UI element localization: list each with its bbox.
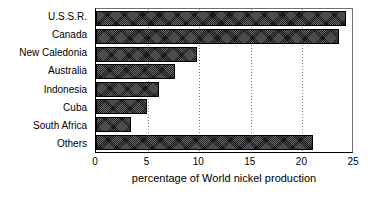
bar <box>96 47 197 62</box>
x-axis-tick-labels: 0510152025 <box>95 156 353 170</box>
bar-row <box>96 45 352 63</box>
x-axis-tick-label: 15 <box>244 156 255 168</box>
nickel-production-bar-chart: U.S.S.R. Canada New Caledonia Australia … <box>0 0 377 198</box>
y-axis-tick-label-row: Indonesia <box>0 81 91 99</box>
bar-row <box>96 133 352 151</box>
bar-row <box>96 116 352 134</box>
y-axis-tick-label: U.S.S.R. <box>48 12 87 22</box>
y-axis-tick-label: Australia <box>48 66 87 76</box>
y-axis-tick-label-row: Canada <box>0 26 91 44</box>
y-axis-tick-label: Cuba <box>63 103 87 113</box>
y-axis-category-labels: U.S.S.R. Canada New Caledonia Australia … <box>0 8 91 153</box>
x-axis-tick-label: 10 <box>193 156 204 168</box>
x-axis-tick-label: 25 <box>347 156 358 168</box>
bar-row <box>96 98 352 116</box>
y-axis-tick-label-row: Cuba <box>0 99 91 117</box>
y-axis-tick-label: New Caledonia <box>19 48 87 58</box>
y-axis-tick-label: South Africa <box>33 121 87 131</box>
bar <box>96 11 346 26</box>
bar-row <box>96 10 352 28</box>
x-axis-title: percentage of World nickel production <box>95 172 353 185</box>
bar <box>96 117 131 132</box>
y-axis-tick-label-row: Australia <box>0 62 91 80</box>
y-axis-tick-label-row: New Caledonia <box>0 44 91 62</box>
x-axis-tick-label: 20 <box>296 156 307 168</box>
x-axis-tick-label: 0 <box>92 156 98 168</box>
y-axis-tick-label-row: South Africa <box>0 117 91 135</box>
plot-area <box>95 8 353 153</box>
bar <box>96 82 159 97</box>
y-axis-tick-label: Canada <box>52 30 87 40</box>
bar-row <box>96 28 352 46</box>
y-axis-tick-label-row: Others <box>0 135 91 153</box>
bar <box>96 29 339 44</box>
x-axis-tick-label: 5 <box>144 156 150 168</box>
bar-series <box>96 9 352 152</box>
y-axis-tick-label: Indonesia <box>44 85 87 95</box>
bar <box>96 99 147 114</box>
bar <box>96 135 313 150</box>
bar-row <box>96 81 352 99</box>
bar <box>96 64 175 79</box>
y-axis-tick-label-row: U.S.S.R. <box>0 8 91 26</box>
y-axis-tick-label: Others <box>57 139 87 149</box>
bar-row <box>96 63 352 81</box>
